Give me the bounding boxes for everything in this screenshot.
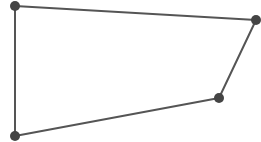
vertex-point-B (251, 15, 261, 25)
vertex-point-C (214, 93, 224, 103)
vertex-point-A (10, 1, 20, 11)
quadrilateral-diagram (0, 0, 261, 142)
vertex-group (10, 1, 261, 141)
quadrilateral-outline (15, 6, 256, 136)
vertex-point-D (10, 131, 20, 141)
